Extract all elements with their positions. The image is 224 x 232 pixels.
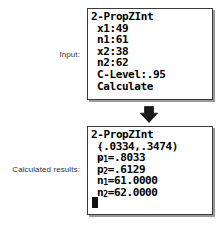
calculator-input-screen: 2-PropZInt x1:49 n1:61 x2:38 n2:62 C-Lev… <box>87 8 213 100</box>
input-screen-title: 2-PropZInt <box>91 11 210 23</box>
cursor-block <box>92 197 98 208</box>
results-screen-lines: 2-PropZInt (.0334,.3474) ˆp1=.8033 ˆp2=.… <box>91 129 210 199</box>
p-hat-caret: ˆ <box>97 147 102 156</box>
calculator-results-screen: 2-PropZInt (.0334,.3474) ˆp1=.8033 ˆp2=.… <box>87 126 213 215</box>
result-row-n2: n2=62.0000 <box>91 187 210 199</box>
results-screen-title: 2-PropZInt <box>91 129 210 141</box>
input-caption: Input: <box>0 50 80 60</box>
results-caption: Calculated results: <box>0 165 80 175</box>
p-hat-caret: ˆ <box>97 158 102 167</box>
diagram-stage: Input: 2-PropZInt x1:49 n1:61 x2:38 n2:6… <box>0 0 224 232</box>
down-arrow-icon <box>139 106 159 123</box>
input-field-c-level[interactable]: C-Level:.95 <box>91 69 210 81</box>
input-screen-lines: 2-PropZInt x1:49 n1:61 x2:38 n2:62 C-Lev… <box>91 11 210 92</box>
p-hat-icon: ˆp <box>97 164 103 176</box>
n2-value: 62.0000 <box>114 186 158 199</box>
calculate-button[interactable]: Calculate <box>91 81 210 93</box>
